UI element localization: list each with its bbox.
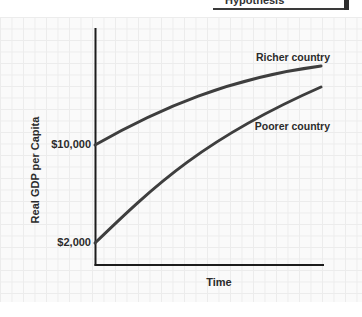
plot-canvas (0, 0, 362, 317)
figure-convergence-chart: Hypothesis $10,000 $2,000 Richer country… (0, 0, 362, 317)
x-axis-title: Time (194, 276, 244, 288)
richer-country-label: Richer country (232, 51, 330, 63)
y-tick-10000: $10,000 (36, 138, 91, 150)
poorer-country-label: Poorer country (232, 120, 330, 132)
y-tick-2000: $2,000 (36, 236, 91, 248)
richer-country-curve (95, 66, 321, 145)
y-axis-title: Real GDP per Capita (29, 90, 43, 250)
poorer-country-curve (95, 87, 321, 243)
